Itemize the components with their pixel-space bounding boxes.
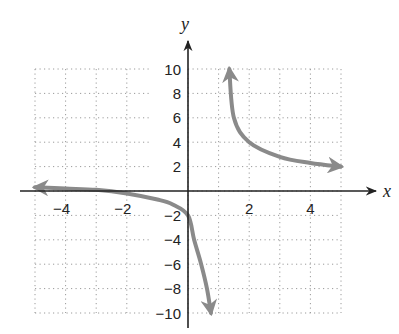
y-tick-label: 8	[173, 85, 181, 102]
curve-branch	[229, 69, 341, 167]
x-tick-label: −4	[53, 200, 70, 217]
y-tick-label: 2	[173, 158, 181, 175]
y-tick-label: 10	[164, 61, 181, 78]
y-tick-label: −6	[164, 256, 181, 273]
y-tick-label: 6	[173, 109, 181, 126]
y-tick-label: 4	[173, 134, 181, 151]
y-tick-label: −4	[164, 231, 181, 248]
y-tick-label: −2	[164, 207, 181, 224]
x-tick-label: −2	[114, 200, 131, 217]
x-axis-label: x	[382, 181, 391, 201]
y-tick-label: −8	[164, 280, 181, 297]
x-tick-label: 2	[245, 200, 253, 217]
y-tick-label: −10	[156, 305, 181, 322]
x-tick-label: 4	[306, 200, 314, 217]
chart-plot: −4−224108642−2−4−6−8−10 x y	[0, 0, 399, 334]
y-axis-label: y	[179, 14, 189, 34]
